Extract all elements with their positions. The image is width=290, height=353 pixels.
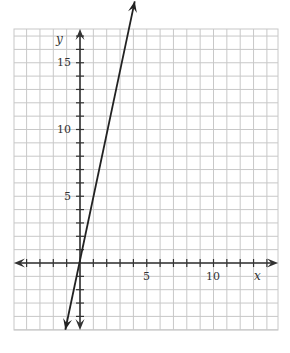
coordinate-plane: y 15 10 5 5 10 x bbox=[0, 0, 290, 353]
x-tick-label-5: 5 bbox=[143, 270, 150, 283]
plotted-line bbox=[63, 1, 137, 329]
y-tick-label-10: 10 bbox=[57, 123, 71, 136]
y-axis-label: y bbox=[55, 32, 63, 46]
x-axis-label: x bbox=[254, 269, 261, 283]
grid bbox=[14, 29, 278, 330]
y-tick-label-15: 15 bbox=[57, 56, 71, 69]
x-tick-label-10: 10 bbox=[206, 270, 220, 283]
y-tick-label-5: 5 bbox=[64, 190, 71, 203]
